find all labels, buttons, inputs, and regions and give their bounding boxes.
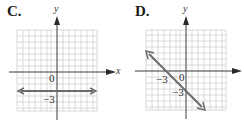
y-axis-arrow-d [183, 16, 189, 25]
tick-label-neg3-c: −3 [43, 93, 55, 105]
y-axis-arrow-c [54, 16, 60, 25]
origin-label-d: 0 [179, 71, 185, 83]
origin-label-c: 0 [49, 72, 55, 84]
y-axis-label-c: y [54, 3, 58, 14]
graph-panel-d: D. [122, 0, 244, 126]
y-tick-label-neg3-d: −3 [172, 86, 184, 98]
y-axis-label-d: y [183, 3, 187, 14]
x-axis-arrow-c [106, 69, 116, 75]
graph-d [122, 0, 244, 126]
axes-c [9, 22, 110, 120]
x-axis-label-c: x [116, 65, 120, 76]
x-axis-arrow-d [232, 68, 242, 74]
x-tick-label-neg3-d: −3 [156, 73, 168, 85]
graph-panel-c: C. [0, 0, 122, 126]
graph-c [0, 0, 122, 126]
